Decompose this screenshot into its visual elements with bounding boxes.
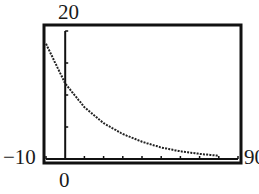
plot-frame	[44, 25, 241, 163]
ymax-label: 20	[58, 2, 79, 23]
data-curve	[46, 44, 219, 156]
xmin-label: −10	[3, 147, 36, 168]
origin-label: 0	[59, 170, 70, 191]
xmax-label: 90	[244, 147, 259, 168]
calculator-graph-window	[0, 0, 259, 194]
